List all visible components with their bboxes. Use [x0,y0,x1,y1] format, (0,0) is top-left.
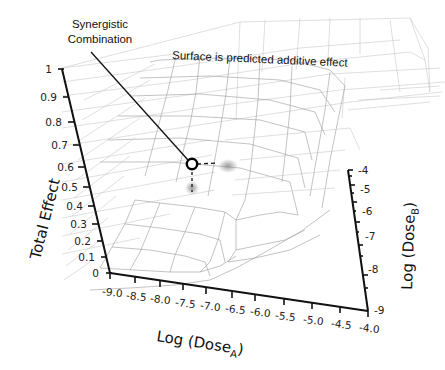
z-tick-label: 0.4 [66,200,83,212]
x-axis: -9.0 -8.5 -8.0 -7.5 -7.0 -6.5 -6.0 -5.5 … [102,273,381,361]
z-tick-label: 1 [45,63,52,75]
x-tick-label: -7.0 [200,299,222,313]
x-tick-label: -4.0 [359,321,381,335]
x-tick-label: -5.0 [303,313,325,327]
y-axis-title-main: Log (Dose [398,214,419,290]
x-tick-label: -5.5 [275,309,297,323]
x-tick-label: -8.5 [126,289,148,303]
z-tick-label: 0.9 [40,91,57,103]
x-tick-label: -8.0 [150,292,172,306]
z-tick-label: 0.8 [45,116,62,128]
dose-response-surface-chart: Synergistic Combination Surface is predi… [0,0,445,370]
x-axis-title-main: Log (Dose [155,327,232,357]
z-tick-label: 0.7 [51,139,68,151]
z-tick-label: 0.6 [57,161,74,173]
projection-shadow-b [218,159,238,173]
z-tick-label: 0.3 [70,218,87,230]
projection-shadow-a [185,181,199,195]
z-tick-label: 0.2 [74,235,91,247]
z-axis-title: Total Effect [26,176,64,262]
synergistic-point [91,52,238,195]
synergy-annotation-line1: Synergistic [72,18,128,30]
x-axis-title-close: ) [236,340,245,359]
y-tick-label: -9 [374,304,384,316]
x-tick-label: -6.5 [225,302,247,316]
z-tick-label: 0 [92,267,99,279]
y-tick-label: -7 [365,230,375,242]
y-tick-label: -6 [362,205,373,217]
y-axis-title-close: ) [401,202,419,208]
z-tick-label: 0.1 [78,251,95,263]
y-axis: -4 -5 -6 -7 -8 -9 Log (DoseB) [348,164,421,316]
synergy-marker-circle [187,159,197,169]
synergy-annotation-line2: Combination [68,33,133,45]
x-tick-label: -6.0 [250,305,272,319]
y-tick-label: -5 [360,183,370,195]
z-tick-label: 0.5 [61,181,78,193]
x-axis-title: Log (DoseA) [155,327,245,361]
y-axis-title: Log (DoseB) [398,202,421,291]
x-tick-label: -9.0 [102,285,124,299]
y-tick-label: -4 [358,164,369,176]
dashed-projection-b [197,163,218,164]
surface-annotation: Surface is predicted additive effect [172,49,349,69]
y-tick-label: -8 [368,263,378,275]
x-tick-label: -4.5 [331,317,353,331]
x-tick-label: -7.5 [175,296,197,310]
